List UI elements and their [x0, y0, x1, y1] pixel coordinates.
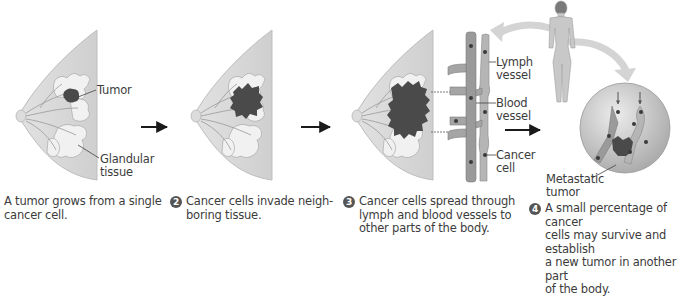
- label-blood-line1: Blood: [496, 96, 527, 110]
- label-blood-line2: vessel: [496, 109, 531, 123]
- label-glandular-line1: Glandular: [100, 152, 154, 166]
- step-4-line4: of the body.: [545, 282, 610, 296]
- step-4-badge: 4: [529, 203, 541, 215]
- label-blood-vessel: Blood vessel: [496, 97, 531, 123]
- step-4-line2: cells may survive and establish: [545, 228, 666, 256]
- label-metastatic-tumor: Metastatic tumor: [546, 173, 604, 199]
- curved-arrow-to-body: [498, 25, 550, 34]
- label-glandular-tissue: Glandular tissue: [100, 153, 154, 179]
- step-4-line1: A small percentage of cancer: [545, 201, 667, 229]
- step-4-line3: a new tumor in another part: [545, 255, 676, 283]
- label-cancer-line1: Cancer: [496, 148, 535, 162]
- breast-panel-2: [191, 30, 272, 180]
- label-lymph-line2: vessel: [496, 68, 531, 82]
- step-caption-1: A tumor grows from a single cancer cell.: [4, 195, 164, 222]
- label-lymph-vessel: Lymph vessel: [496, 56, 533, 82]
- label-metastatic-line1: Metastatic: [546, 172, 604, 186]
- step-3-badge: 3: [343, 196, 355, 208]
- label-cancer-line2: cell: [496, 161, 515, 175]
- metastasis-magnified-view: [580, 83, 670, 178]
- breast-panel-1: [16, 30, 99, 180]
- label-metastatic-line2: tumor: [546, 185, 580, 199]
- label-glandular-line2: tissue: [100, 165, 133, 179]
- curved-arrow-to-site: [568, 42, 626, 70]
- step-3-line3: other parts of the body.: [359, 221, 489, 235]
- step-3-line1: Cancer cells spread through: [359, 194, 515, 208]
- step-1-line1: A tumor grows from a single: [4, 194, 162, 208]
- step-1-line2: cancer cell.: [4, 208, 67, 222]
- label-lymph-line1: Lymph: [496, 55, 533, 69]
- step-caption-4: 4 A small percentage of cancer cells may…: [529, 202, 688, 297]
- step-2-badge: 2: [170, 196, 182, 208]
- breast-panel-3: [352, 30, 454, 180]
- vessels: [448, 32, 496, 182]
- curved-arrow-head-left: [490, 22, 504, 42]
- label-tumor: Tumor: [97, 84, 132, 97]
- step-caption-3: 3 Cancer cells spread through lymph and …: [343, 195, 518, 236]
- human-figure: [549, 1, 575, 102]
- step-2-line1: Cancer cells invade neigh-: [186, 194, 333, 208]
- curved-arrow-head-down: [614, 68, 636, 82]
- step-3-line2: lymph and blood vessels to: [359, 208, 511, 222]
- step-2-line2: boring tissue.: [186, 208, 261, 222]
- lymph-vessel: [479, 34, 490, 181]
- label-cancer-cell: Cancer cell: [496, 149, 535, 175]
- step-caption-2: 2 Cancer cells invade neigh- boring tiss…: [170, 195, 340, 222]
- blood-vessel: [466, 32, 476, 182]
